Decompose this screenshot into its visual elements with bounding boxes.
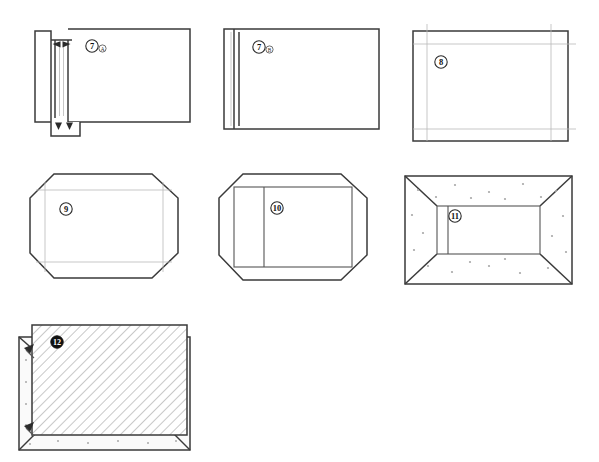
panel-9-callout-number: 9 bbox=[64, 204, 68, 214]
panel-7a-seat-fill bbox=[51, 122, 80, 136]
panel-11-callout-number: 11 bbox=[451, 211, 459, 221]
panel-12-callout-number: 12 bbox=[53, 338, 61, 347]
panel-11: 11 bbox=[405, 176, 572, 284]
panel-7a-flange-fill bbox=[35, 31, 51, 122]
panel-7b-body-fill bbox=[224, 29, 379, 129]
panel-10: 10 bbox=[219, 174, 367, 280]
panel-8-body-fill bbox=[413, 31, 568, 141]
panel-10-callout-number: 10 bbox=[273, 203, 282, 213]
panel-7a: 7 A bbox=[35, 29, 190, 136]
diagram-sheet: 7 A 7 B bbox=[0, 0, 599, 462]
panel-12-callout: 12 bbox=[51, 336, 63, 348]
panel-7a-callout-suffix: A bbox=[101, 46, 105, 52]
panel-9-callout: 9 bbox=[60, 203, 72, 215]
panel-10-inner-fill bbox=[234, 187, 352, 267]
panel-11-callout: 11 bbox=[449, 210, 461, 222]
panel-7a-arrow-top-left bbox=[53, 41, 61, 47]
panel-9: 9 bbox=[30, 174, 178, 278]
panel-10-callout: 10 bbox=[271, 202, 283, 214]
panel-12: 12 bbox=[19, 325, 190, 450]
assembly-diagram-canvas: 7 A 7 B bbox=[0, 0, 599, 462]
panel-7b: 7 B bbox=[224, 29, 379, 129]
panel-8-callout-number: 8 bbox=[439, 57, 443, 67]
panel-8-callout: 8 bbox=[435, 56, 447, 68]
panel-8: 8 bbox=[413, 24, 576, 141]
panel-7b-callout-suffix: B bbox=[268, 47, 272, 53]
